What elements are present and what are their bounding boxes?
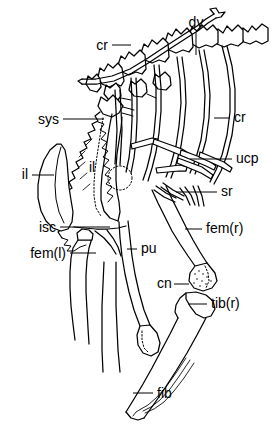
- ilium-right: [78, 114, 132, 221]
- anatomical-figure: dv cr cr ucp sr sys il il isc fem(l) pu …: [0, 0, 272, 438]
- ilium-left-blade: [38, 144, 73, 231]
- label-il-left: il: [22, 166, 28, 182]
- label-tib-r: tib(r): [211, 295, 240, 311]
- label-ucp: ucp: [236, 150, 259, 166]
- dorsal-vertebrae-group: [86, 24, 268, 117]
- label-pu: pu: [141, 240, 157, 256]
- label-sys: sys: [38, 111, 59, 127]
- label-cn: cn: [157, 275, 172, 291]
- label-fem-r: fem(r): [206, 220, 243, 236]
- label-cr-top: cr: [96, 37, 108, 53]
- label-fib: fib: [157, 385, 172, 401]
- label-isc: isc: [39, 219, 56, 235]
- sternal-ribs-group: [154, 183, 204, 206]
- label-sr: sr: [221, 183, 233, 199]
- label-il-mid: il: [89, 159, 95, 175]
- label-dv: dv: [189, 14, 204, 30]
- tibia-left-shaft: [102, 262, 120, 372]
- label-cr-right: cr: [234, 109, 246, 125]
- skeleton-drawing-svg: dv cr cr ucp sr sys il il isc fem(l) pu …: [0, 0, 272, 438]
- label-fem-l: fem(l): [30, 245, 66, 261]
